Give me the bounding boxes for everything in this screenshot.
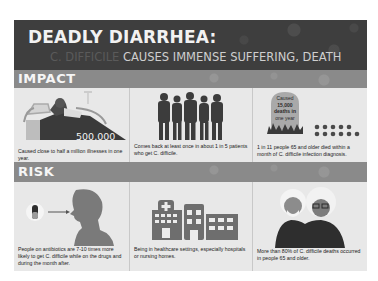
- impact-caption-2: Comes back at least once in about 1 in 5…: [134, 143, 248, 157]
- page-subtitle: C. DIFFICILE CAUSES IMMENSE SUFFERING, D…: [50, 50, 341, 64]
- risk-caption-1: People on antibiotics are 7-10 times mor…: [18, 246, 125, 267]
- illness-count-stat: 500,000: [76, 131, 115, 142]
- risk-section-header: RISK: [14, 162, 367, 182]
- risk-card-elderly: More than 80% of C. difficile deaths occ…: [253, 182, 367, 271]
- impact-card-illnesses: 500,000 Caused close to half a million i…: [14, 88, 130, 162]
- risk-card-healthcare: Being in healthcare settings, especially…: [130, 182, 253, 271]
- impact-card-recurrence: Comes back at least once in about 1 in 5…: [130, 88, 253, 162]
- one-in-eleven-dots: [313, 124, 365, 138]
- subtitle-text: CAUSES IMMENSE SUFFERING, DEATH: [123, 50, 341, 64]
- impact-caption-3: 1 in 11 people 65 and older died within …: [257, 144, 363, 158]
- risk-caption-2: Being in healthcare settings, especially…: [134, 246, 248, 260]
- impact-row: 500,000 Caused close to half a million i…: [14, 88, 367, 162]
- impact-card-deaths: Caused 15,000 deaths in one year 1 in 11…: [253, 88, 367, 162]
- subtitle-faded: C. DIFFICILE: [50, 50, 123, 64]
- hospital-building-icon: [152, 196, 238, 240]
- infographic: DEADLY DIARRHEA: C. DIFFICILE CAUSES IMM…: [14, 20, 367, 271]
- risk-row: People on antibiotics are 7-10 times mor…: [14, 182, 367, 271]
- title-banner: DEADLY DIARRHEA: C. DIFFICILE CAUSES IMM…: [14, 20, 367, 70]
- page-title: DEADLY DIARRHEA:: [28, 27, 217, 47]
- risk-card-antibiotics: People on antibiotics are 7-10 times mor…: [14, 182, 130, 271]
- pill-to-person-icon: [24, 188, 114, 246]
- risk-caption-3: More than 80% of C. difficile deaths occ…: [257, 248, 363, 262]
- risk-label: RISK: [18, 164, 54, 179]
- elderly-couple-icon: [275, 186, 345, 248]
- impact-caption-1: Caused close to half a million illnesses…: [18, 148, 125, 162]
- impact-section-header: IMPACT: [14, 70, 367, 88]
- people-group-icon: [156, 92, 226, 140]
- impact-label: IMPACT: [18, 71, 76, 86]
